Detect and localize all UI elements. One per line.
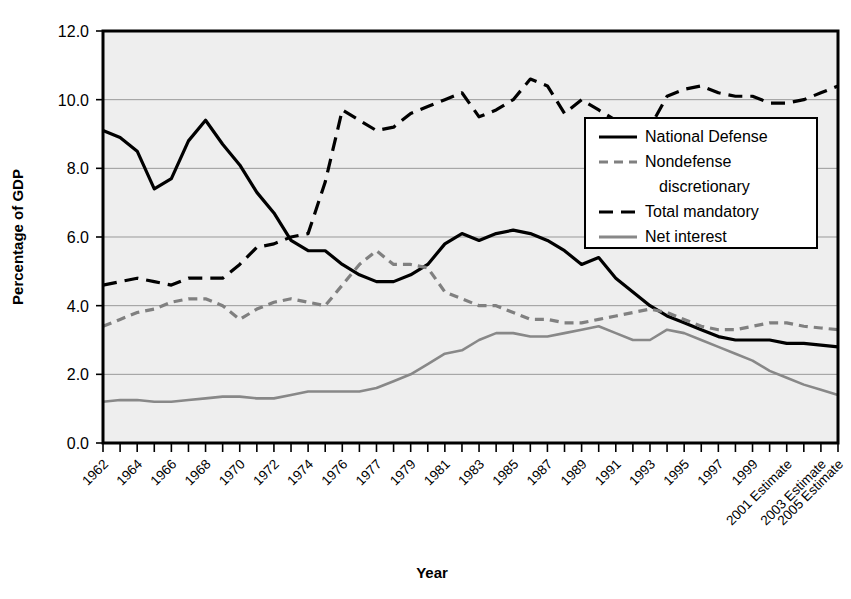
legend-label: Net interest: [645, 228, 727, 245]
y-tick-label: 12.0: [58, 23, 89, 40]
y-tick-label: 0.0: [67, 435, 89, 452]
y-tick-label: 4.0: [67, 298, 89, 315]
line-chart: 1962196419661968197019721974197619771979…: [0, 0, 851, 599]
chart-root: 1962196419661968197019721974197619771979…: [0, 0, 851, 599]
legend-label: discretionary: [659, 178, 750, 195]
y-axis-title: Percentage of GDP: [9, 169, 26, 305]
legend-label: Nondefense: [645, 153, 731, 170]
legend-label: Total mandatory: [645, 203, 759, 220]
y-tick-label: 6.0: [67, 229, 89, 246]
y-tick-label: 2.0: [67, 366, 89, 383]
chart-legend: National DefenseNondefensediscretionaryT…: [585, 118, 817, 248]
x-axis-title: Year: [416, 564, 448, 581]
y-tick-label: 10.0: [58, 92, 89, 109]
legend-label: National Defense: [645, 128, 768, 145]
y-tick-label: 8.0: [67, 160, 89, 177]
